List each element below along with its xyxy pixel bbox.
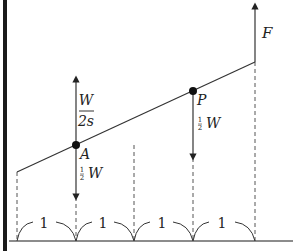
weight-label-p: W (206, 115, 222, 131)
span-label-1: 1 (40, 215, 49, 231)
upward-force-numerator: W (79, 92, 95, 108)
span-label-2: 1 (99, 215, 108, 231)
half-den-a: 2 (80, 174, 84, 182)
span-label-4: 1 (218, 215, 227, 231)
beam-force-diagram: 1 1 1 1 F W 2s A 1 2 W P 1 2 W (0, 0, 293, 251)
force-f-label: F (261, 24, 273, 42)
half-den-p: 2 (198, 124, 202, 132)
half-num-a: 1 (80, 166, 84, 174)
weight-label-a: W (88, 165, 104, 181)
left-border-bar (3, 0, 7, 251)
point-p (189, 87, 197, 95)
span-label-3: 1 (158, 215, 167, 231)
point-a-label: A (78, 146, 90, 162)
point-a (72, 141, 80, 149)
point-p-label: P (196, 92, 207, 108)
half-num-p: 1 (198, 116, 202, 124)
upward-force-denominator: 2s (77, 113, 94, 129)
